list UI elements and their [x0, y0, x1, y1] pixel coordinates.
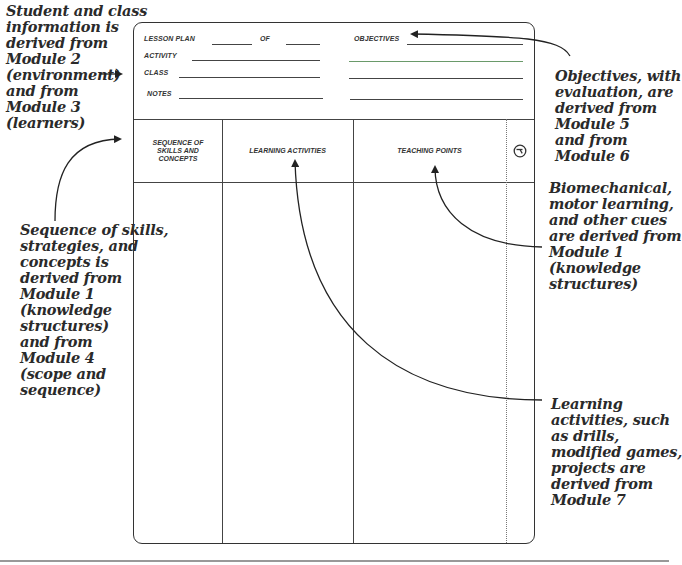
arrow-objectives — [412, 34, 570, 56]
arrow-sequence — [55, 139, 120, 221]
arrow-teaching-points — [435, 167, 542, 247]
arrow-learning-activities — [295, 161, 542, 400]
footer-rule — [0, 560, 669, 562]
